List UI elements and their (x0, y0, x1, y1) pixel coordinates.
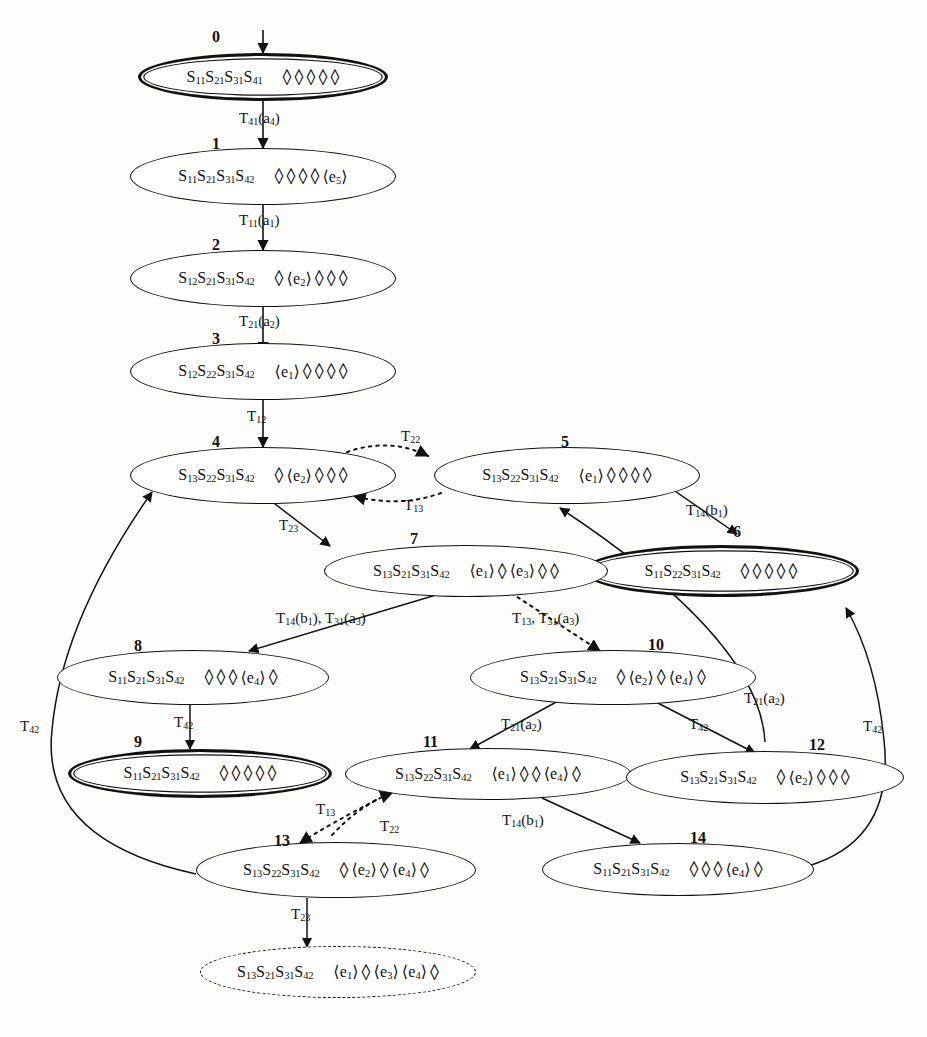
edge-label-2-3: T21(a2) (239, 313, 280, 330)
node-4-label: 4 (212, 433, 220, 451)
node-14-content: S11S21S31S42 ◊◊◊⟨e4⟩◊ (593, 860, 762, 879)
edge-label-11-13: T22 (380, 818, 399, 835)
edge-11-14 (542, 798, 640, 843)
node-1-state: S11S21S31S42 (178, 167, 254, 185)
node-4-slots: ◊⟨e2⟩◊◊◊ (275, 466, 348, 485)
edge-label-7-8: T14(b1), T31(a3) (276, 610, 366, 627)
node-9[interactable]: S11S21S31S42 ◊◊◊◊◊ (68, 749, 332, 798)
edge-12-5 (560, 508, 765, 742)
edge-4-5 (347, 445, 428, 456)
node-11-slots: ⟨e1⟩◊◊⟨e4⟩◊ (491, 764, 581, 783)
node-0[interactable]: S11S21S31S41 ◊◊◊◊◊ (138, 53, 388, 101)
node-9-content: S11S21S31S42 ◊◊◊◊◊ (123, 764, 276, 782)
node-0-slots: ◊◊◊◊◊ (283, 68, 340, 86)
node-10-label: 10 (648, 636, 664, 654)
node-2[interactable]: S12S21S31S42 ◊⟨e2⟩◊◊◊ (130, 250, 396, 307)
node-8-slots: ◊◊◊⟨e4⟩◊ (204, 668, 277, 687)
node-7-content: S13S21S31S42 ⟨e1⟩◊⟨e3⟩◊◊ (373, 561, 559, 580)
node-8-content: S11S21S31S42 ◊◊◊⟨e4⟩◊ (108, 668, 277, 687)
edge-label-14-6: T42 (863, 718, 882, 735)
node-5[interactable]: S13S22S31S42 ⟨e1⟩◊◊◊◊ (434, 447, 700, 504)
node-10-slots: ◊⟨e2⟩◊⟨e4⟩◊ (616, 668, 706, 687)
node-terminal-state: S13S21S31S42 (237, 963, 313, 981)
node-2-label: 2 (212, 236, 220, 254)
node-14-state: S11S21S31S42 (593, 860, 669, 878)
node-4[interactable]: S13S22S31S42 ◊⟨e2⟩◊◊◊ (130, 447, 396, 504)
node-6-slots: ◊◊◊◊◊ (741, 562, 798, 580)
node-13-content: S13S22S31S42 ◊⟨e2⟩◊⟨e4⟩◊ (243, 860, 429, 879)
node-1-slots: ◊◊◊◊⟨e5⟩ (274, 167, 347, 186)
node-9-state: S11S21S31S42 (123, 764, 199, 782)
node-11-content: S13S22S31S42 ⟨e1⟩◊◊⟨e4⟩◊ (395, 764, 581, 783)
node-1[interactable]: S11S21S31S42 ◊◊◊◊⟨e5⟩ (130, 148, 396, 205)
edge-label-3-4: T12 (247, 408, 266, 425)
node-3-state: S12S22S31S42 (178, 362, 254, 380)
edge-label-8-9: T42 (174, 714, 193, 731)
node-6-state: S11S22S31S42 (644, 562, 720, 580)
node-2-state: S12S21S31S42 (178, 269, 254, 287)
node-terminal[interactable]: S13S21S31S42 ⟨e1⟩◊⟨e3⟩⟨e4⟩◊ (200, 946, 476, 998)
node-4-state: S13S22S31S42 (178, 466, 254, 484)
node-terminal-content: S13S21S31S42 ⟨e1⟩◊⟨e3⟩⟨e4⟩◊ (237, 962, 439, 981)
edge-label-13-11: T13 (316, 801, 335, 818)
node-8-state: S11S21S31S42 (108, 668, 184, 686)
node-11-state: S13S22S31S42 (395, 765, 471, 783)
node-6[interactable]: S11S22S31S42 ◊◊◊◊◊ (583, 545, 859, 597)
node-5-content: S13S22S31S42 ⟨e1⟩◊◊◊◊ (482, 466, 652, 485)
node-9-slots: ◊◊◊◊◊ (220, 764, 277, 782)
edge-label-10-11: T21(a2) (501, 716, 542, 733)
node-5-slots: ⟨e1⟩◊◊◊◊ (579, 466, 652, 485)
node-5-label: 5 (561, 433, 569, 451)
node-3[interactable]: S12S22S31S42 ⟨e1⟩◊◊◊◊ (130, 343, 396, 400)
node-12-content: S13S21S31S42 ◊⟨e2⟩◊◊◊ (680, 768, 850, 787)
edge-label-1-2: T11(a1) (239, 212, 279, 229)
node-11-label: 11 (423, 733, 438, 751)
edge-label-13-15: T23 (291, 906, 310, 923)
node-terminal-slots: ⟨e1⟩◊⟨e3⟩⟨e4⟩◊ (333, 962, 439, 981)
edge-label-4-5: T22 (401, 428, 420, 445)
node-3-content: S12S22S31S42 ⟨e1⟩◊◊◊◊ (178, 362, 348, 381)
node-13-state: S13S22S31S42 (243, 861, 319, 879)
node-13-label: 13 (274, 832, 290, 850)
edge-label-5-6: T14(b1) (686, 502, 728, 519)
node-0-state: S11S21S31S41 (186, 68, 262, 86)
edge-label-12-5: T21(a2) (744, 690, 785, 707)
node-1-content: S11S21S31S42 ◊◊◊◊⟨e5⟩ (178, 167, 347, 186)
edge-label-7-10: T13, T31(a3) (512, 610, 579, 627)
edge-11-13 (300, 800, 376, 843)
diagram-canvas: S11S21S31S41 ◊◊◊◊◊ 0 S11S21S31S42 ◊◊◊◊⟨e… (0, 0, 927, 1037)
node-14[interactable]: S11S21S31S42 ◊◊◊⟨e4⟩◊ (542, 843, 814, 896)
node-1-label: 1 (212, 135, 220, 153)
node-13[interactable]: S13S22S31S42 ◊⟨e2⟩◊⟨e4⟩◊ (196, 842, 476, 898)
node-7-state: S13S21S31S42 (373, 562, 449, 580)
node-14-slots: ◊◊◊⟨e4⟩◊ (689, 860, 762, 879)
edge-label-5-4: T13 (404, 497, 423, 514)
node-14-label: 14 (690, 829, 706, 847)
edge-label-4-7: T23 (279, 517, 298, 534)
node-12-slots: ◊⟨e2⟩◊◊◊ (777, 768, 850, 787)
edge-label-10-12: T42 (689, 716, 708, 733)
node-7-label: 7 (410, 530, 418, 548)
node-10[interactable]: S13S21S31S42 ◊⟨e2⟩◊⟨e4⟩◊ (470, 650, 756, 705)
node-10-content: S13S21S31S42 ◊⟨e2⟩◊⟨e4⟩◊ (520, 668, 706, 687)
node-7-slots: ⟨e1⟩◊⟨e3⟩◊◊ (469, 561, 559, 580)
node-8[interactable]: S11S21S31S42 ◊◊◊⟨e4⟩◊ (57, 650, 329, 705)
node-7[interactable]: S13S21S31S42 ⟨e1⟩◊⟨e3⟩◊◊ (324, 545, 608, 597)
edge-label-0-1: T41(a4) (239, 110, 280, 127)
node-5-state: S13S22S31S42 (482, 466, 558, 484)
node-2-slots: ◊⟨e2⟩◊◊◊ (275, 269, 348, 288)
node-3-slots: ⟨e1⟩◊◊◊◊ (275, 362, 348, 381)
node-4-content: S13S22S31S42 ◊⟨e2⟩◊◊◊ (178, 466, 348, 485)
node-12[interactable]: S13S21S31S42 ◊⟨e2⟩◊◊◊ (626, 751, 904, 804)
node-8-label: 8 (134, 637, 142, 655)
node-12-label: 12 (809, 736, 825, 754)
node-3-label: 3 (212, 330, 220, 348)
node-13-slots: ◊⟨e2⟩◊⟨e4⟩◊ (339, 860, 429, 879)
node-11[interactable]: S13S22S31S42 ⟨e1⟩◊◊⟨e4⟩◊ (345, 748, 631, 800)
node-0-label: 0 (212, 28, 220, 46)
node-9-label: 9 (134, 733, 142, 751)
node-6-content: S11S22S31S42 ◊◊◊◊◊ (644, 562, 797, 580)
edge-label-11-14: T14(b1) (502, 812, 544, 829)
node-2-content: S12S21S31S42 ◊⟨e2⟩◊◊◊ (178, 269, 348, 288)
edge-5-4 (354, 493, 441, 501)
